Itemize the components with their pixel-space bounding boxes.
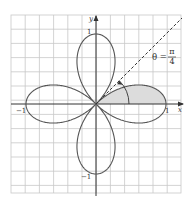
shaded-region xyxy=(96,85,166,104)
theta-equals-label: θ = xyxy=(152,52,167,62)
y-axis-label: y xyxy=(88,15,94,23)
x-tick-neg1: −1 xyxy=(16,107,26,115)
y-axis-arrow-icon xyxy=(94,15,99,21)
angle-denominator: 4 xyxy=(169,57,174,66)
y-tick-1: 1 xyxy=(87,28,91,36)
x-tick-1: 1 xyxy=(165,107,169,115)
y-tick-neg1: −1 xyxy=(81,173,91,181)
x-axis-label: x xyxy=(178,106,182,114)
polar-rose-diagram: y x −1 1 1 −1 θ = π 4 xyxy=(0,0,191,201)
angle-numerator: π xyxy=(169,47,174,56)
